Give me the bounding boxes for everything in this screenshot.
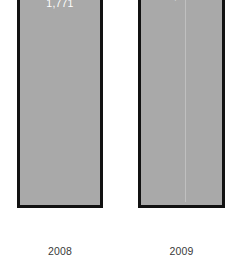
bar-2008[interactable]: 1,771 <box>17 0 103 208</box>
bar-seam-line <box>185 0 186 202</box>
bar-chart: 1,771 1,829 2008 2009 <box>0 0 237 271</box>
category-label-2008: 2008 <box>17 245 103 257</box>
plot-area: 1,771 1,829 <box>0 0 237 241</box>
bar-value-label-2009: 1,829 <box>141 0 222 1</box>
bar-value-label-2008: 1,771 <box>20 0 100 9</box>
bar-2009[interactable]: 1,829 <box>138 0 225 208</box>
category-label-2009: 2009 <box>138 245 225 257</box>
